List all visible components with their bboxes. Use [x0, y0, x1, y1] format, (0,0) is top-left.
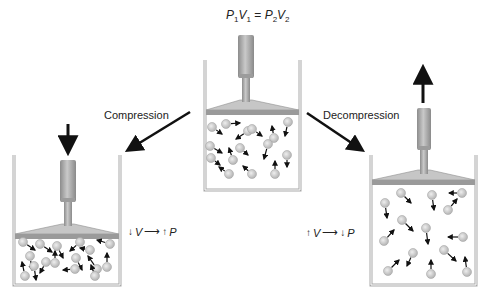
piston-cone — [206, 100, 299, 110]
gas-particle — [243, 166, 257, 179]
velocity-arrow-icon — [70, 245, 76, 251]
eq-equals: = — [251, 8, 265, 22]
gas-particle — [36, 240, 53, 253]
right-arrow-icon: ⟶ — [144, 225, 160, 238]
particle-icon — [236, 144, 245, 153]
right-arrow-icon: ⟶ — [322, 226, 338, 239]
gas-particle — [384, 260, 400, 276]
gas-particle — [283, 151, 292, 168]
particle-icon — [459, 233, 468, 242]
particle-icon — [26, 252, 35, 261]
piston-collar — [61, 198, 75, 202]
left-cylinder-container — [14, 124, 120, 285]
particle-icon — [397, 189, 406, 198]
particle-icon — [271, 170, 280, 179]
particle-icon — [103, 263, 112, 272]
eq-p2: P — [265, 8, 273, 22]
particle-icon — [264, 140, 273, 149]
particle-icon — [380, 237, 389, 246]
velocity-arrow-icon — [427, 233, 428, 244]
velocity-arrow-icon — [80, 248, 85, 249]
gas-particle — [428, 191, 437, 211]
right-cylinder-container — [371, 68, 476, 285]
gas-particle — [463, 257, 472, 277]
velocity-arrow-icon — [285, 127, 287, 136]
velocity-arrow-icon — [264, 149, 267, 159]
gas-particle — [398, 216, 414, 232]
gas-particle — [53, 242, 64, 259]
particle-icon — [222, 120, 231, 129]
particle-icon — [42, 258, 51, 267]
velocity-arrow-icon — [243, 166, 248, 171]
particle-icon — [248, 125, 257, 134]
particle-icon — [208, 123, 217, 132]
particle-icon — [19, 238, 28, 247]
particle-icon — [225, 170, 234, 179]
particle-icon — [76, 238, 85, 247]
particle-icon — [51, 259, 60, 268]
piston-collar — [239, 74, 253, 78]
decompression-label: Decompression — [323, 109, 399, 121]
gas-particle — [271, 161, 280, 179]
particle-icon — [398, 216, 407, 225]
velocity-arrow-icon — [272, 126, 273, 133]
boyles-law-equation: P1V1 = P2V2 — [226, 8, 290, 24]
gas-particle — [448, 233, 468, 242]
gas-particle — [422, 224, 431, 245]
gas-particle — [284, 118, 293, 137]
particle-icon — [30, 262, 39, 271]
velocity-arrow-icon — [236, 134, 244, 139]
particle-icon — [21, 272, 30, 281]
velocity-arrow-icon — [407, 258, 411, 266]
particle-icon — [444, 206, 453, 215]
gas-particle — [21, 262, 30, 281]
particle-icon — [381, 199, 390, 208]
velocity-arrow-icon — [63, 269, 70, 270]
velocity-arrow-icon — [256, 132, 262, 136]
velocity-arrow-icon — [465, 257, 466, 267]
gas-particle — [270, 126, 279, 143]
particle-icon — [86, 246, 95, 255]
piston-rod — [420, 150, 428, 174]
velocity-arrow-icon — [433, 200, 434, 210]
gas-particle — [222, 120, 241, 129]
velocity-arrow-icon — [231, 123, 240, 124]
particle-icon — [409, 249, 418, 258]
velocity-arrow-icon — [22, 262, 24, 271]
compression-relation: ↓ V ⟶ ↑ P — [128, 225, 177, 238]
particle-icon — [91, 272, 100, 281]
velocity-arrow-icon — [215, 161, 220, 165]
gas-particle — [206, 142, 223, 154]
particle-icon — [422, 224, 431, 233]
gas-particle — [427, 260, 436, 279]
piston-plate — [15, 234, 119, 239]
gas-particle — [397, 189, 412, 204]
piston-handle — [60, 160, 76, 202]
gas-particle — [444, 199, 458, 215]
pressure-symbol: P — [169, 226, 176, 238]
velocity-arrow-icon — [27, 245, 35, 250]
gas-particle — [236, 144, 249, 156]
particle-icon — [427, 270, 436, 279]
compression-label: Compression — [104, 109, 169, 121]
boyles-law-diagram — [0, 0, 493, 299]
volume-symbol: V — [135, 226, 142, 238]
gas-particle — [80, 246, 95, 255]
velocity-arrow-icon — [244, 151, 248, 155]
gas-particle — [208, 123, 223, 135]
gas-particle — [19, 238, 36, 251]
eq-p1: P — [226, 8, 234, 22]
gas-particles — [380, 189, 472, 279]
particle-icon — [428, 191, 437, 200]
gas-particle — [381, 199, 390, 219]
velocity-arrow-icon — [451, 199, 457, 206]
eq-sub: 2 — [285, 15, 289, 24]
volume-down-icon: ↓ — [128, 226, 133, 237]
particle-icon — [106, 240, 115, 249]
gas-particle — [30, 262, 39, 281]
volume-symbol: V — [313, 227, 320, 239]
particle-icon — [384, 267, 393, 276]
velocity-arrow-icon — [229, 148, 231, 155]
particle-icon — [283, 151, 292, 160]
piston — [206, 35, 299, 115]
